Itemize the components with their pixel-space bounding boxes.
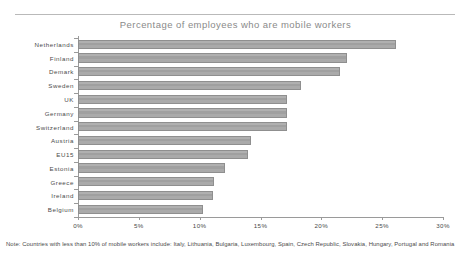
y-axis-tick — [74, 121, 78, 122]
y-axis-label: Sweden — [4, 82, 74, 89]
y-axis-label: Ireland — [4, 192, 74, 199]
y-axis-label: EU15 — [4, 151, 74, 158]
bar-row — [78, 52, 443, 66]
x-axis-ticks: 0%5%10%15%20%25%30% — [78, 217, 444, 237]
bar — [78, 108, 287, 117]
x-axis-tick — [443, 217, 444, 220]
y-axis-tick — [74, 52, 78, 53]
y-axis-tick — [74, 203, 78, 204]
y-axis-label: Finland — [4, 55, 74, 62]
x-axis-tick — [321, 217, 322, 220]
bar-row — [78, 162, 443, 176]
bar-series — [78, 38, 443, 217]
bar — [78, 163, 225, 172]
bar — [78, 150, 248, 159]
y-axis-tick — [74, 217, 78, 218]
bar — [78, 81, 301, 90]
y-axis-tick — [74, 148, 78, 149]
chart-footnote: Note: Countries with less than 10% of mo… — [6, 241, 454, 247]
bar-row — [78, 121, 443, 135]
bar-row — [78, 79, 443, 93]
bar — [78, 40, 396, 49]
y-axis-label: Switzerland — [4, 124, 74, 131]
bar-row — [78, 134, 443, 148]
y-axis-label: Greece — [4, 179, 74, 186]
bar — [78, 177, 214, 186]
y-axis-tick — [74, 66, 78, 67]
chart-page: Percentage of employees who are mobile w… — [0, 0, 471, 257]
bar — [78, 205, 203, 214]
bar-row — [78, 148, 443, 162]
bar — [78, 122, 287, 131]
y-axis-label: Demark — [4, 68, 74, 75]
bar — [78, 136, 251, 145]
x-axis-tick — [200, 217, 201, 220]
x-axis-tick — [139, 217, 140, 220]
x-axis-label: 30% — [436, 222, 450, 229]
chart-title: Percentage of employees who are mobile w… — [0, 19, 471, 30]
bar — [78, 67, 340, 76]
y-axis-tick — [74, 162, 78, 163]
bar-row — [78, 189, 443, 203]
plot-area — [78, 38, 443, 217]
x-axis-label: 0% — [73, 222, 83, 229]
bar-row — [78, 38, 443, 52]
x-axis-label: 20% — [315, 222, 329, 229]
y-axis-label: UK — [4, 96, 74, 103]
y-axis-label: Netherlands — [4, 41, 74, 48]
bar-row — [78, 176, 443, 190]
y-axis-label: Austria — [4, 137, 74, 144]
x-axis-label: 5% — [134, 222, 144, 229]
y-axis-category-labels: NetherlandsFinlandDemarkSwedenUKGermanyS… — [0, 38, 74, 217]
bar-row — [78, 107, 443, 121]
bar-row — [78, 66, 443, 80]
y-axis-tick — [74, 38, 78, 39]
bar-row — [78, 93, 443, 107]
x-axis-label: 10% — [193, 222, 207, 229]
y-axis-label: Belgium — [4, 206, 74, 213]
y-axis-tick — [74, 79, 78, 80]
x-axis-tick — [78, 217, 79, 220]
y-axis-label: Germany — [4, 110, 74, 117]
bar-row — [78, 203, 443, 217]
x-axis-label: 25% — [375, 222, 389, 229]
header-divider — [15, 14, 455, 15]
x-axis-tick — [382, 217, 383, 220]
y-axis-label: Estonia — [4, 165, 74, 172]
y-axis-tick — [74, 107, 78, 108]
bar — [78, 53, 347, 62]
x-axis-tick — [261, 217, 262, 220]
bar — [78, 191, 213, 200]
y-axis-tick — [74, 134, 78, 135]
y-axis-tick — [74, 93, 78, 94]
bar — [78, 95, 287, 104]
y-axis-tick — [74, 176, 78, 177]
y-axis-tick — [74, 189, 78, 190]
x-axis-label: 15% — [254, 222, 268, 229]
